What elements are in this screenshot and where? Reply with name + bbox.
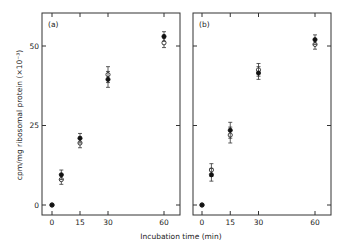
chart: 015306002550(a) 0153060(b) cpm/mg riboso… [0, 0, 342, 249]
x-tick-label: 0 [50, 218, 55, 227]
x-tick-label: 15 [225, 218, 235, 227]
filled-data-point [106, 77, 110, 81]
x-tick-label: 30 [254, 218, 264, 227]
plot-frame [193, 13, 331, 215]
panel-b: 0153060(b) [193, 13, 331, 227]
y-tick-label: 50 [29, 42, 39, 51]
x-tick-label: 0 [200, 218, 205, 227]
panel-label: (a) [48, 20, 59, 29]
y-axis-label: cpm/mg ribosomal protein (×10⁻³) [15, 50, 24, 180]
filled-data-point [228, 128, 232, 132]
filled-data-point [50, 203, 54, 207]
filled-data-point [200, 203, 204, 207]
x-axis-label: Incubation time (min) [140, 232, 221, 241]
x-tick-label: 60 [159, 218, 169, 227]
filled-data-point [78, 136, 82, 140]
panel-a: 015306002550(a) [29, 13, 180, 227]
filled-data-point [209, 173, 213, 177]
x-tick-label: 60 [310, 218, 320, 227]
filled-data-point [59, 173, 63, 177]
filled-data-point [256, 71, 260, 75]
panel-label: (b) [199, 20, 210, 29]
y-tick-label: 0 [34, 201, 39, 210]
y-tick-label: 25 [29, 121, 39, 130]
x-tick-label: 30 [103, 218, 113, 227]
filled-data-point [313, 38, 317, 42]
filled-data-point [162, 34, 166, 38]
x-tick-label: 15 [75, 218, 85, 227]
